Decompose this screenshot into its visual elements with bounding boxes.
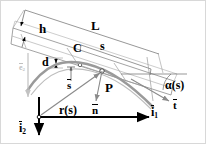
label-position-vector: r(s)	[59, 104, 77, 116]
label-ghost-basis-subscript: 2	[23, 67, 25, 72]
diagram-canvas	[1, 1, 206, 144]
label-tangent-vector-t: t	[173, 99, 177, 111]
label-arc-length-s: s	[100, 40, 105, 52]
label-thickness-h: h	[39, 22, 46, 35]
label-ghost-basis: e2	[19, 63, 25, 73]
label-basis-i1-subscript: 1	[154, 111, 158, 120]
label-position-vector-arg: (s)	[64, 103, 77, 117]
label-centroid-C: C	[73, 42, 82, 54]
angle-vertex-line	[147, 57, 153, 101]
label-angle-alpha: α(s)	[165, 79, 184, 91]
label-basis-i1: i1	[151, 105, 158, 119]
label-point-P: P	[105, 81, 113, 94]
label-normal-vector-n: n	[92, 104, 98, 116]
label-arc-vector-s: s	[67, 79, 71, 91]
label-length-L: L	[91, 19, 100, 32]
label-basis-i2-subscript: 2	[22, 127, 26, 136]
label-offset-d: d	[42, 56, 49, 68]
label-basis-i2: i2	[19, 121, 26, 135]
beam-kinematics-figure: h L C s d P s n t r(s) α(s) i1 i2 e2	[0, 0, 206, 144]
global-frame	[37, 97, 149, 135]
